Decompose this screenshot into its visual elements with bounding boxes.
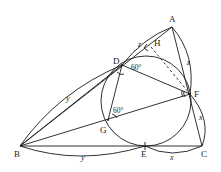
segment-bf: [20, 94, 190, 146]
label-g: G: [100, 125, 107, 135]
segment-bd-inner: [20, 65, 122, 146]
incircle: [101, 56, 191, 146]
label-angle-d: 60°: [131, 63, 142, 72]
label-h: H: [154, 38, 161, 48]
side-ac: [172, 27, 202, 146]
geometry-diagram: A B C D E F G H z z y y x x 60° 60°: [0, 0, 221, 172]
point-g: [107, 119, 109, 121]
label-e: E: [141, 149, 147, 159]
point-f: [189, 93, 191, 95]
label-y-bd: y: [65, 94, 70, 103]
segment-hf-dashed: [151, 47, 190, 94]
label-c: C: [201, 149, 207, 159]
label-d: D: [113, 56, 120, 66]
label-angle-g: 60°: [113, 106, 124, 115]
label-x-ce: x: [169, 153, 174, 162]
label-b: B: [14, 149, 20, 159]
label-f: F: [194, 89, 199, 99]
arc-cf: [190, 94, 205, 146]
label-a: A: [169, 14, 176, 24]
label-y-be: y: [80, 153, 85, 162]
arc-ce: [145, 146, 202, 153]
label-x-cf: x: [198, 113, 203, 122]
point-d: [121, 64, 123, 66]
